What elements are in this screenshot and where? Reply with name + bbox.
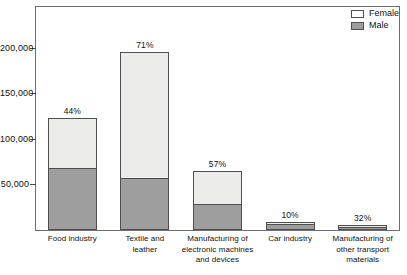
category-label-line: other transport: [317, 245, 407, 256]
bar-percent-label: 44%: [48, 106, 97, 116]
bar-stack[interactable]: [338, 225, 387, 230]
legend-item-female[interactable]: Female: [351, 9, 399, 18]
bar-group[interactable]: 71%: [120, 7, 169, 230]
bars-layer: 44%71%57%10%32%: [36, 7, 399, 230]
y-axis-tick-label: 100,000: [0, 134, 29, 144]
legend-swatch-icon: [351, 22, 364, 30]
legend-item-male[interactable]: Male: [351, 21, 399, 30]
bar-group[interactable]: 10%: [266, 7, 315, 230]
category-label-line: materials: [317, 255, 407, 266]
bar-segment-male[interactable]: [121, 178, 168, 229]
category-label-line: Manufacturing of: [317, 234, 407, 245]
bar-segment-female[interactable]: [121, 53, 168, 179]
y-axis-tick-label: 150,000: [0, 88, 29, 98]
category-label-line: electronic machines: [172, 245, 263, 256]
bar-group[interactable]: 32%: [338, 7, 387, 230]
bar-percent-label: 71%: [120, 40, 169, 50]
bar-group[interactable]: 44%: [48, 7, 97, 230]
bar-stack[interactable]: [193, 171, 242, 230]
bar-percent-label: 32%: [338, 213, 387, 223]
legend: FemaleMale: [351, 9, 399, 30]
legend-label: Female: [369, 9, 399, 18]
bar-stack[interactable]: [120, 52, 169, 230]
stacked-bar-chart: 50,000100,000150,000200,000 44%71%57%10%…: [0, 0, 407, 275]
bar-stack[interactable]: [48, 118, 97, 230]
bar-stack[interactable]: [266, 222, 315, 230]
y-axis-tick-label: 50,000: [0, 179, 29, 189]
x-axis-category-label: Manufacturing ofother transportmaterials: [317, 234, 407, 266]
bar-segment-male[interactable]: [339, 227, 386, 229]
bar-segment-male[interactable]: [49, 168, 96, 229]
bar-segment-female[interactable]: [194, 172, 241, 205]
legend-swatch-icon: [351, 10, 364, 18]
bar-percent-label: 10%: [266, 210, 315, 220]
bar-group[interactable]: 57%: [193, 7, 242, 230]
bar-percent-label: 57%: [193, 159, 242, 169]
y-axis-tick-label: 200,000: [0, 43, 29, 53]
bar-segment-male[interactable]: [267, 224, 314, 229]
x-axis-category-labels: Food industryTextile andleatherManufactu…: [36, 234, 399, 275]
bar-segment-male[interactable]: [194, 204, 241, 229]
bar-segment-female[interactable]: [49, 119, 96, 168]
legend-label: Male: [369, 21, 389, 30]
category-label-line: and devices: [172, 255, 263, 266]
